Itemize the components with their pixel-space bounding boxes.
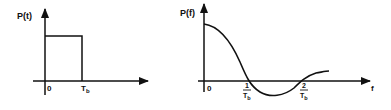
tick-one-over-tb: 1 Tb [243,82,251,101]
diagram-canvas: P(t) 0 Tb P(f) 0 f 1 Tb 2 Tb [0,0,391,110]
rectangular-pulse [45,36,82,81]
left-tb-label: Tb [81,84,90,94]
right-y-label: P(f) [180,8,195,18]
spectrum-curve [204,24,329,95]
tick-two-over-tb: 2 Tb [300,82,308,101]
f-axis-label: f [371,84,374,93]
svg-text:2: 2 [302,82,306,89]
left-y-label: P(t) [17,11,32,21]
right-origin-label: 0 [207,84,212,93]
svg-text:Tb: Tb [243,92,251,101]
time-domain-plot: P(t) 0 Tb [17,9,148,95]
svg-text:Tb: Tb [300,92,308,101]
svg-text:1: 1 [245,82,249,89]
left-origin-label: 0 [47,84,52,93]
frequency-domain-plot: P(f) 0 f 1 Tb 2 Tb [180,4,374,101]
